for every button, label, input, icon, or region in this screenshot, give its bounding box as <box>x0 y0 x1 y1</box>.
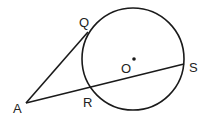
center-point-o <box>132 57 136 61</box>
label-a: A <box>13 101 22 116</box>
tangent-segment-aq <box>26 32 88 103</box>
label-q: Q <box>79 15 89 30</box>
geometry-diagram: Q O S A R <box>0 0 208 123</box>
label-r: R <box>83 95 92 110</box>
secant-segment-as <box>26 64 184 103</box>
label-o: O <box>121 61 131 76</box>
label-s: S <box>189 60 198 75</box>
